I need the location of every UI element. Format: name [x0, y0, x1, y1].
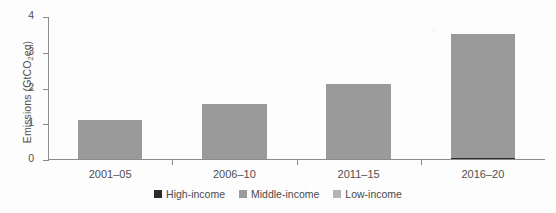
legend-item[interactable]: High-income: [154, 189, 225, 200]
bar-group[interactable]: [202, 104, 267, 159]
y-axis-tick-label: 4: [28, 10, 34, 21]
x-axis-tick: [421, 160, 422, 165]
y-axis-tick: 2: [43, 89, 48, 90]
bar-segment[interactable]: [451, 34, 516, 158]
y-axis-tick-label: 0: [28, 153, 34, 164]
y-axis-line: [48, 17, 49, 161]
x-axis-tick: [172, 160, 173, 165]
y-axis-tick: 3: [43, 53, 48, 54]
bar-group[interactable]: [78, 120, 143, 159]
y-axis-tick: 1: [43, 124, 48, 125]
bar-group[interactable]: [451, 34, 516, 159]
y-axis-title-prefix: Emissions (GtCO: [21, 61, 33, 144]
x-axis-tick-label: 2006–10: [213, 168, 256, 180]
y-axis-tick-label: 1: [28, 117, 34, 128]
legend-swatch-icon: [333, 190, 341, 198]
x-axis-tick-label: 2001–05: [89, 168, 132, 180]
bar-chart-figure: Emissions (GtCO2eq) 01234 2001–052006–10…: [0, 0, 556, 213]
chart-legend: High-incomeMiddle-incomeLow-income: [0, 189, 556, 200]
bar-group[interactable]: [326, 84, 391, 159]
x-axis-tick-labels: 2001–052006–102011–152016–20: [48, 168, 545, 184]
legend-item[interactable]: Low-income: [333, 189, 402, 200]
legend-label: Low-income: [345, 189, 402, 200]
bar-segment[interactable]: [326, 84, 391, 159]
legend-label: Middle-income: [251, 189, 319, 200]
bar-segment[interactable]: [451, 158, 516, 159]
y-axis-title-subscript: 2: [26, 56, 35, 60]
bar-segment[interactable]: [78, 120, 143, 159]
legend-item[interactable]: Middle-income: [239, 189, 319, 200]
y-axis-tick-label: 2: [28, 82, 34, 93]
x-axis-tick-label: 2016–20: [461, 168, 504, 180]
y-axis-tick: 4: [43, 17, 48, 18]
plot-area: 01234: [48, 17, 545, 160]
y-axis-tick: 0: [43, 160, 48, 161]
x-axis-tick: [297, 160, 298, 165]
legend-label: High-income: [166, 189, 225, 200]
legend-swatch-icon: [154, 190, 162, 198]
legend-swatch-icon: [239, 190, 247, 198]
bar-segment[interactable]: [202, 104, 267, 159]
x-axis-tick-label: 2011–15: [338, 168, 380, 180]
y-axis-tick-label: 3: [28, 46, 34, 57]
